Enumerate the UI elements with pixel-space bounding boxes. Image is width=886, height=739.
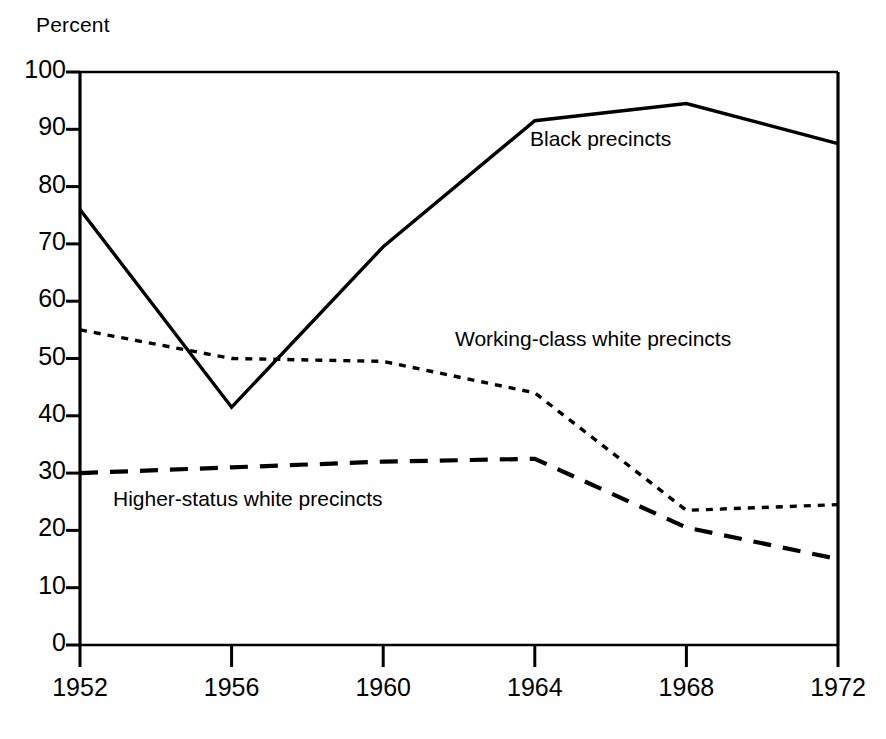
y-tick-label: 90	[0, 112, 66, 141]
y-tick-label: 80	[0, 170, 66, 199]
x-tick-label: 1972	[788, 673, 886, 702]
y-tick-label: 10	[0, 571, 66, 600]
y-tick-label: 60	[0, 284, 66, 313]
x-tick-label: 1956	[182, 673, 282, 702]
y-tick-label: 70	[0, 227, 66, 256]
y-tick-label: 50	[0, 342, 66, 371]
plot-area	[0, 0, 886, 739]
y-tick-label: 40	[0, 399, 66, 428]
y-tick-label: 100	[0, 55, 66, 84]
series-line-0	[80, 104, 838, 408]
y-tick-label: 30	[0, 456, 66, 485]
x-tick-label: 1964	[485, 673, 585, 702]
y-tick-label: 0	[0, 628, 66, 657]
series-label-higher-status-white-precincts: Higher-status white precincts	[113, 487, 383, 511]
x-tick-label: 1960	[333, 673, 433, 702]
series-label-working-class-white-precincts: Working-class white precincts	[455, 327, 731, 351]
x-tick-label: 1968	[636, 673, 736, 702]
series-label-black-precincts: Black precincts	[530, 127, 671, 151]
y-tick-label: 20	[0, 513, 66, 542]
line-chart: Percent 0102030405060708090100 195219561…	[0, 0, 886, 739]
x-tick-label: 1952	[30, 673, 130, 702]
